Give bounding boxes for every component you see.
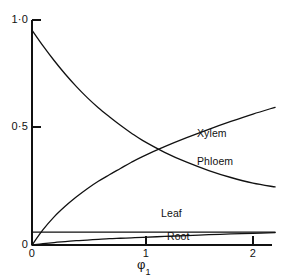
chart-figure: 1·0 0·5 0 0 1 2 φ1 Xylem Phloem Leaf Roo… bbox=[0, 0, 293, 276]
data-curves bbox=[32, 30, 275, 245]
curve-label-phloem: Phloem bbox=[197, 156, 233, 167]
plot-canvas bbox=[0, 0, 293, 276]
curve-label-root: Root bbox=[167, 231, 190, 242]
x-tick-label-0: 0 bbox=[20, 248, 44, 259]
curve-root bbox=[32, 233, 275, 245]
curve-label-leaf: Leaf bbox=[161, 208, 182, 219]
y-tick-label-0-5: 0·5 bbox=[0, 121, 28, 132]
x-tick-label-2: 2 bbox=[241, 248, 265, 259]
x-axis-title-subscript: 1 bbox=[145, 267, 150, 276]
x-axis-title: φ1 bbox=[137, 258, 150, 275]
curve-phloem bbox=[32, 30, 275, 187]
curve-xylem bbox=[32, 107, 275, 245]
curve-label-xylem: Xylem bbox=[197, 128, 227, 139]
y-tick-label-1-0: 1·0 bbox=[0, 14, 28, 25]
